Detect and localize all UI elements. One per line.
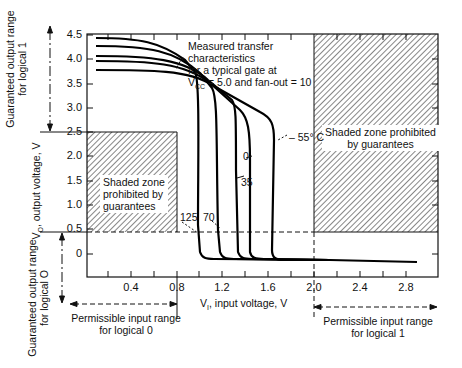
curve-label-0c: 0 [243,150,249,162]
curve-label-minus55c: – 55° C [289,131,324,143]
x-tick: 0.4 [116,281,146,293]
x-tick: 2.0 [299,281,329,293]
logic1-input-range-label: Permissible input range for logical 1 [318,315,438,339]
x-tick: 2.8 [391,281,421,293]
right-zone-label: Shaded zone prohibited by guarantees [322,125,439,151]
y-tick: 2.0 [52,149,82,161]
measured-characteristics-note: Measured transfer characteristics for a … [188,40,311,93]
x-tick: 2.4 [345,281,375,293]
y-axis-label: VO, output voltage, V [30,136,47,246]
logic0-input-range-arrow [70,302,177,307]
curve-label-70c: 70 [203,211,215,223]
logic1-output-range-label: Guaranteed output range for logical 1 [4,10,28,128]
x-tick: 1.2 [207,281,237,293]
y-tick: 3.0 [52,101,82,113]
y-tick: 2.5 [52,125,82,137]
y-tick: 0.5 [52,222,82,234]
y-tick: 4.5 [52,28,82,40]
x-axis-label: VI, input voltage, V [200,297,287,314]
left-zone-label: Shaded zone prohibited by guarantees [100,175,168,213]
x-tick: 0.8 [162,281,192,293]
y-tick: 4.0 [52,52,82,64]
y-tick: 0 [52,247,82,259]
y-tick: 1.5 [52,174,82,186]
curve-label-125c: 125 [180,211,198,223]
logic0-output-range-label: Guaranteed output range for logical O [26,238,50,358]
logic0-input-range-label: Permissible input range for logical 0 [66,312,186,336]
logic1-input-range-arrow [314,305,437,310]
curve-label-35c: 35 [241,176,253,188]
x-tick: 1.6 [253,281,283,293]
y-tick: 1.0 [52,198,82,210]
y-tick: 3.5 [52,77,82,89]
logic0-output-range-arrow [60,233,65,303]
